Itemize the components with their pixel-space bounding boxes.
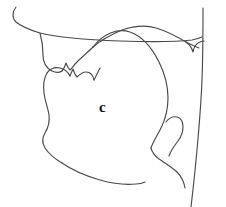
epiglottis-line xyxy=(166,117,183,156)
velum-uvula-line xyxy=(186,41,204,52)
place-label-c: c xyxy=(99,100,106,115)
tongue-dorsum-line xyxy=(93,31,168,148)
vocal-tract-diagram: c xyxy=(0,0,226,207)
tongue-root-line xyxy=(151,148,185,188)
lower-lip-outer-line xyxy=(43,73,62,163)
upper-teeth-line xyxy=(62,47,93,71)
jaw-floor-line xyxy=(62,163,145,184)
tongue-blade-line xyxy=(94,68,100,80)
hard-palate-line xyxy=(93,26,199,48)
upper-lip-line xyxy=(40,33,62,73)
vocal-tract-illustration xyxy=(0,0,226,207)
lower-teeth-line xyxy=(70,69,94,80)
